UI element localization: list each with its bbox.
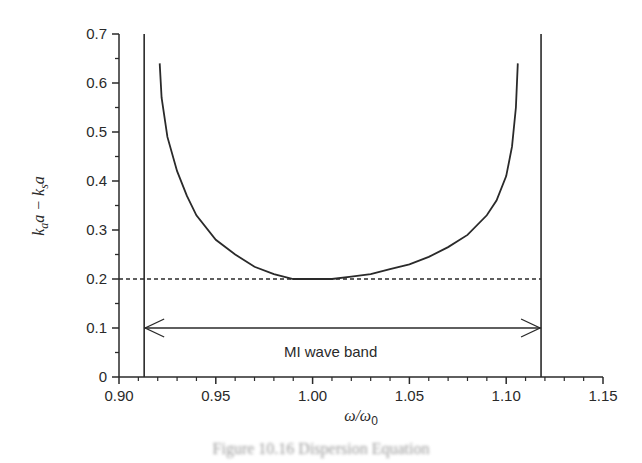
x-tick-label: 0.90: [104, 387, 133, 404]
y-tick-label: 0: [99, 368, 107, 385]
x-tick-label: 1.15: [588, 387, 617, 404]
y-tick-label: 0.4: [86, 172, 107, 189]
x-ticks: 0.900.951.001.051.101.15: [104, 377, 617, 404]
y-tick-label: 0.6: [86, 74, 107, 91]
y-tick-label: 0.3: [86, 221, 107, 238]
y-tick-label: 0.5: [86, 123, 107, 140]
y-ticks: 00.10.20.30.40.50.60.7: [86, 25, 119, 385]
x-tick-label: 1.00: [298, 387, 327, 404]
x-tick-label: 1.05: [395, 387, 424, 404]
y-tick-label: 0.2: [86, 270, 107, 287]
mi-band-arrow: [144, 319, 541, 337]
x-tick-label: 1.10: [492, 387, 521, 404]
dispersion-chart: 00.10.20.30.40.50.60.7 0.900.951.001.051…: [0, 0, 642, 463]
y-tick-label: 0.1: [86, 319, 107, 336]
y-axis-label: kaa − ksa: [30, 176, 51, 236]
dispersion-curve: [160, 63, 518, 279]
x-tick-label: 0.95: [201, 387, 230, 404]
y-tick-label: 0.7: [86, 25, 107, 42]
mi-band-boundaries: [144, 34, 541, 377]
mi-band-label: MI wave band: [284, 343, 377, 360]
figure-caption: Figure 10.16 Dispersion Equation: [0, 440, 642, 458]
x-axis-label: ω/ω0: [344, 407, 378, 428]
